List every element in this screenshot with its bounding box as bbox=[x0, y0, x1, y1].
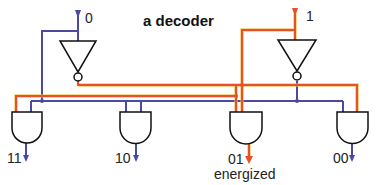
input-0-arrow-icon bbox=[75, 10, 81, 18]
output-01-arrow-icon bbox=[245, 156, 253, 164]
output-11-arrow-icon bbox=[23, 155, 29, 162]
inverter-1 bbox=[278, 40, 316, 80]
output-11-label: 11 bbox=[7, 151, 22, 165]
output-10-arrow-icon bbox=[133, 155, 139, 162]
input-0-label: 0 bbox=[85, 11, 93, 25]
and-gate-00 bbox=[337, 112, 368, 144]
and-gate-01 bbox=[230, 112, 262, 144]
on-wires bbox=[16, 12, 357, 160]
input-1-arrow-icon bbox=[292, 8, 298, 17]
energized-note: energized bbox=[214, 167, 276, 181]
output-00-label: 00 bbox=[333, 151, 349, 165]
output-00-arrow-icon bbox=[349, 155, 355, 162]
and-gate-11 bbox=[12, 112, 42, 143]
diagram-title: a decoder bbox=[143, 13, 214, 28]
and-gate-10 bbox=[120, 112, 151, 143]
input-1-label: 1 bbox=[306, 9, 314, 23]
output-10-label: 10 bbox=[115, 151, 131, 165]
output-01-label: 01 bbox=[228, 152, 244, 166]
inverter-0 bbox=[60, 41, 96, 81]
